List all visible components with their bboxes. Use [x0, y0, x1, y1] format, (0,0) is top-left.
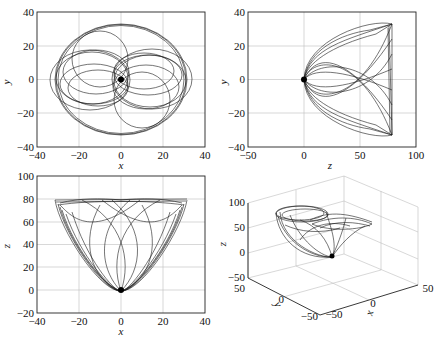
svg-text:−20: −20 — [17, 107, 35, 119]
x-axis-label: z — [327, 159, 333, 171]
y-axis-label: y — [0, 79, 12, 85]
plot-xz: 100 80 60 40 20 0 −20 −40 −20 0 20 40 x … — [0, 170, 211, 337]
svg-text:80: 80 — [23, 193, 35, 205]
fixed-point — [118, 287, 124, 293]
svg-text:−50: −50 — [239, 149, 257, 161]
x-axis-label: x — [118, 159, 124, 171]
plot-xy: 40 20 0 −20 −40 −40 −20 0 20 40 x y — [0, 6, 211, 171]
x-tick-labels: −50 0 50 — [325, 282, 434, 320]
fixed-point — [301, 77, 307, 83]
grid-lines — [248, 12, 416, 147]
y-tick-labels: 40 20 0 −20 −40 — [17, 6, 35, 153]
svg-text:50: 50 — [234, 221, 246, 233]
svg-text:0: 0 — [240, 73, 246, 85]
svg-text:50: 50 — [355, 149, 367, 161]
svg-text:−20: −20 — [70, 315, 88, 327]
plot-zy: 40 20 0 −20 −40 −50 0 50 100 z y — [217, 6, 425, 171]
box-edges — [248, 176, 418, 300]
svg-text:100: 100 — [18, 170, 35, 182]
y-axis-label: z — [0, 243, 12, 249]
x-axis-label: x — [118, 325, 124, 337]
svg-text:50: 50 — [234, 282, 246, 294]
plot-xyz-3d: 100 50 0 −50 50 0 −50 −50 0 50 x y z — [216, 176, 434, 322]
svg-text:50: 50 — [423, 282, 435, 294]
svg-text:40: 40 — [234, 6, 246, 18]
svg-text:20: 20 — [23, 40, 35, 52]
z-axis-label: z — [216, 241, 228, 247]
svg-text:40: 40 — [23, 238, 35, 250]
fixed-point — [330, 254, 335, 259]
figure: 40 20 0 −20 −40 −40 −20 0 20 40 x y — [0, 0, 438, 346]
svg-text:−50: −50 — [325, 308, 343, 320]
y-tick-labels: 40 20 0 −20 −40 — [228, 6, 246, 153]
svg-text:20: 20 — [23, 261, 35, 273]
svg-text:40: 40 — [200, 315, 212, 327]
svg-text:−20: −20 — [228, 107, 246, 119]
svg-text:0: 0 — [370, 297, 376, 309]
svg-text:40: 40 — [200, 149, 212, 161]
svg-text:20: 20 — [158, 315, 170, 327]
svg-text:−20: −20 — [70, 149, 88, 161]
y-tick-labels: 100 80 60 40 20 0 −20 — [17, 170, 35, 319]
svg-text:−50: −50 — [301, 310, 319, 322]
svg-text:40: 40 — [23, 6, 35, 18]
svg-text:60: 60 — [23, 216, 35, 228]
svg-text:0: 0 — [301, 149, 307, 161]
fixed-point — [118, 77, 124, 83]
svg-text:0: 0 — [29, 73, 35, 85]
svg-text:0: 0 — [240, 246, 246, 258]
svg-text:0: 0 — [29, 284, 35, 296]
svg-text:100: 100 — [408, 149, 425, 161]
svg-text:100: 100 — [229, 196, 246, 208]
z-tick-labels: 100 50 0 −50 — [228, 196, 246, 283]
axis-lines — [248, 203, 418, 315]
svg-text:20: 20 — [158, 149, 170, 161]
svg-text:−40: −40 — [28, 149, 46, 161]
y-axis-label: y — [217, 79, 229, 85]
svg-text:20: 20 — [234, 40, 246, 52]
svg-text:−40: −40 — [28, 315, 46, 327]
trajectory — [276, 206, 372, 257]
x-axis-label: x — [362, 309, 375, 318]
